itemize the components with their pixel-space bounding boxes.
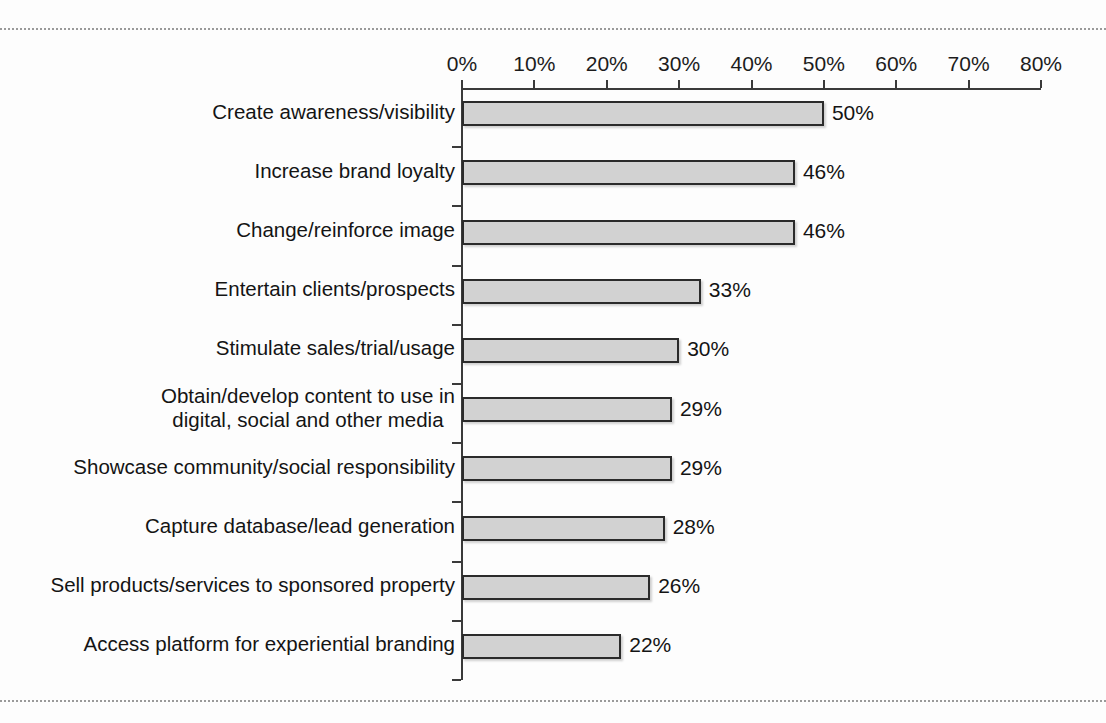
x-axis-tick-label: 60% [875, 52, 917, 76]
x-axis-tick [1040, 80, 1042, 88]
y-axis-tick [452, 324, 461, 326]
x-axis-tick-label: 30% [658, 52, 700, 76]
bar-value-label: 30% [687, 337, 729, 361]
x-axis-tick [461, 80, 463, 88]
y-axis-tick [452, 146, 461, 148]
x-axis-tick-label: 0% [447, 52, 477, 76]
x-axis-tick [751, 80, 753, 88]
x-axis-tick [968, 80, 970, 88]
bar-value-label: 28% [673, 515, 715, 539]
bar [462, 634, 621, 659]
bar-value-label: 46% [803, 160, 845, 184]
y-axis-tick [452, 442, 461, 444]
category-label: Change/reinforce image [236, 218, 455, 242]
chart-page: 0%10%20%30%40%50%60%70%80%50%Create awar… [0, 0, 1106, 723]
bar [462, 220, 795, 245]
bar [462, 338, 679, 363]
y-axis-tick [452, 265, 461, 267]
bar [462, 160, 795, 185]
bar [462, 279, 701, 304]
x-axis-tick-label: 20% [586, 52, 628, 76]
bar-value-label: 29% [680, 456, 722, 480]
category-label: Showcase community/social responsibility [73, 455, 455, 479]
x-axis-tick-label: 40% [730, 52, 772, 76]
category-label: Sell products/services to sponsored prop… [50, 573, 455, 597]
bar [462, 516, 665, 541]
bar [462, 397, 672, 422]
bar-value-label: 22% [629, 633, 671, 657]
y-axis-tick [452, 561, 461, 563]
bar [462, 101, 824, 126]
y-axis-tick [452, 205, 461, 207]
x-axis-tick-label: 80% [1020, 52, 1062, 76]
horizontal-bar-chart: 0%10%20%30%40%50%60%70%80%50%Create awar… [0, 0, 1106, 723]
bar-value-label: 50% [832, 101, 874, 125]
x-axis-tick [533, 80, 535, 88]
x-axis-tick [678, 80, 680, 88]
bar [462, 575, 650, 600]
bar-value-label: 26% [658, 574, 700, 598]
y-axis-tick [452, 679, 461, 681]
x-axis-tick-label: 70% [948, 52, 990, 76]
x-axis-line [462, 88, 1041, 90]
bar-value-label: 29% [680, 397, 722, 421]
category-label: Increase brand loyalty [254, 159, 455, 183]
x-axis-tick-label: 10% [513, 52, 555, 76]
category-label: Access platform for experiential brandin… [84, 632, 455, 656]
x-axis-tick-label: 50% [803, 52, 845, 76]
category-label: Capture database/lead generation [145, 514, 455, 538]
bar-value-label: 33% [709, 278, 751, 302]
y-axis-tick [452, 501, 461, 503]
x-axis-tick [895, 80, 897, 88]
y-axis-tick [452, 620, 461, 622]
x-axis-tick [823, 80, 825, 88]
category-label: Entertain clients/prospects [215, 277, 455, 301]
category-label: Obtain/develop content to use in digital… [161, 384, 455, 432]
bar-value-label: 46% [803, 219, 845, 243]
category-label: Stimulate sales/trial/usage [216, 336, 455, 360]
category-label: Create awareness/visibility [212, 100, 455, 124]
x-axis-tick [606, 80, 608, 88]
bar [462, 456, 672, 481]
